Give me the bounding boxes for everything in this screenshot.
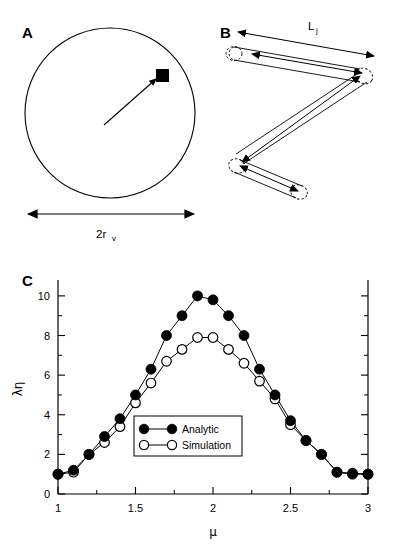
data-point-analytic: [53, 469, 63, 479]
data-point-analytic: [286, 416, 296, 426]
segment-vector-middle: [242, 76, 360, 162]
length-measure-arrow: [238, 32, 374, 56]
data-point-analytic: [348, 469, 358, 479]
data-point-analytic: [255, 364, 265, 374]
data-point-analytic: [317, 449, 327, 459]
data-point-analytic: [332, 467, 342, 477]
segment-vector-top: [252, 54, 362, 73]
y-tick-label: 10: [38, 290, 50, 302]
rod-bottom: [226, 156, 309, 201]
x-axis-label: μ: [209, 525, 217, 539]
data-point-analytic: [177, 311, 187, 321]
chart-panel-c: 024681011.522.53μληAnalyticSimulation: [6, 266, 396, 556]
data-point-simulation: [255, 376, 265, 386]
data-point-analytic: [208, 295, 218, 305]
data-point-analytic: [301, 436, 311, 446]
legend-marker-simulation: [139, 440, 148, 449]
data-point-analytic: [69, 465, 79, 475]
y-tick-label: 8: [44, 330, 50, 342]
data-point-simulation: [177, 345, 187, 355]
data-point-analytic: [193, 291, 203, 301]
data-point-analytic: [131, 390, 141, 400]
figure-root: A 2r v B: [0, 0, 398, 560]
x-tick-label: 1: [55, 502, 61, 514]
legend-marker-simulation: [167, 440, 176, 449]
y-tick-label: 0: [44, 488, 50, 500]
data-point-analytic: [224, 311, 234, 321]
data-point-simulation: [146, 378, 156, 388]
data-point-analytic: [146, 364, 156, 374]
data-point-analytic: [239, 331, 249, 341]
panel-b-diagram: L j: [212, 14, 398, 214]
chart-root: 024681011.522.53μληAnalyticSimulation: [11, 280, 373, 539]
vesicle-circle: [25, 28, 195, 198]
data-point-analytic: [84, 449, 94, 459]
particle-square: [156, 69, 169, 82]
y-tick-label: 2: [44, 448, 50, 460]
segment-length-label: L: [308, 20, 315, 32]
data-point-analytic: [270, 390, 280, 400]
legend-marker-analytic: [139, 424, 149, 434]
rod-top: [226, 47, 360, 83]
data-point-simulation: [239, 358, 249, 368]
data-point-analytic: [100, 432, 110, 442]
panel-a-diagram: 2r v: [8, 14, 213, 259]
data-point-simulation: [193, 333, 203, 343]
x-tick-label: 1.5: [128, 502, 143, 514]
diameter-label: 2r: [96, 228, 106, 240]
position-vector-arrow: [104, 79, 156, 125]
legend-label-analytic: Analytic: [182, 423, 219, 435]
segment-length-label-subscript: j: [315, 26, 318, 35]
data-point-analytic: [162, 331, 172, 341]
y-tick-label: 4: [44, 409, 50, 421]
y-tick-label: 6: [44, 369, 50, 381]
y-axis-label: λη: [11, 382, 25, 397]
legend-label-simulation: Simulation: [182, 439, 231, 451]
diameter-label-subscript: v: [112, 234, 116, 243]
x-tick-label: 2: [210, 502, 216, 514]
x-tick-label: 2.5: [283, 502, 298, 514]
data-point-simulation: [162, 356, 172, 366]
data-point-analytic: [363, 469, 373, 479]
data-point-simulation: [208, 333, 218, 343]
data-point-analytic: [115, 414, 125, 424]
x-tick-label: 3: [365, 502, 371, 514]
data-point-simulation: [224, 345, 234, 355]
legend-marker-analytic: [167, 424, 177, 434]
